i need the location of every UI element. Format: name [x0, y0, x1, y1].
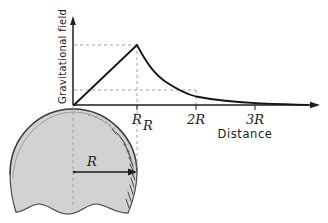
- figure-canvas: R R: [0, 0, 328, 223]
- field-curve-outside: [137, 45, 308, 105]
- planet-radius-label: R: [86, 154, 97, 169]
- surface-radius-label: R: [142, 118, 153, 133]
- planet-sphere-shape: [10, 108, 137, 215]
- x-tick-label-3R: 3R: [246, 112, 264, 127]
- arrow-up-icon: [70, 16, 76, 25]
- arrow-right-icon-x: [310, 102, 320, 108]
- planet-body-group: R: [10, 108, 137, 215]
- diagram-svg: R R: [0, 0, 328, 223]
- x-axis-title: Distance: [217, 127, 272, 141]
- x-tick-label-2R: 2R: [186, 112, 205, 127]
- x-tick-label-R: R: [131, 112, 142, 127]
- y-axis-title: Gravitational field: [57, 9, 68, 104]
- field-curve-group: [74, 45, 308, 105]
- field-curve-inside: [74, 45, 137, 105]
